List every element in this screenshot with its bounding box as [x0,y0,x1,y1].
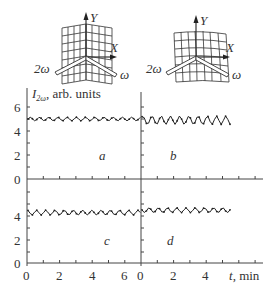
xtick-right-0: 0 [137,268,144,283]
diagram-left-y-label: Y [90,10,99,25]
grid-left-half [62,24,86,84]
diagram-right-y-label: Y [200,13,209,28]
ytick-bot-0: 0 [14,256,21,271]
xtick-2: 2 [56,268,63,283]
xtick-6: 6 [121,268,128,283]
diagram-left [55,12,117,84]
diagram-right [166,15,230,82]
series-line-c [28,210,140,215]
diagram-left-w-label: ω [120,67,129,82]
y-axis-title: I2ω, arb. units [31,86,101,103]
ytick-top-4: 4 [14,124,21,139]
panel-label-b: b [170,148,177,163]
xtick-right-4: 4 [202,268,209,283]
xtick-4: 4 [89,268,96,283]
diagram-right-x-label: X [225,40,235,55]
diagram-left-2w-label: 2ω [34,61,50,76]
ytick-bot-2: 2 [14,233,21,248]
ytick-top-6: 6 [14,100,21,115]
data-series [27,115,231,216]
xtick-right-2: 2 [170,268,177,283]
x-axis-title: t, min [229,268,260,283]
ytick-top-0: 0 [14,172,21,187]
diagram-right-w-label: ω [232,67,241,82]
figure: Y X 2ω ω Y X 2ω ω I2ω, arb. units [0,0,277,295]
xtick-0: 0 [23,268,30,283]
panel-label-c: c [104,233,110,248]
axes [27,88,263,266]
diagram-right-2w-label: 2ω [146,61,162,76]
ytick-bot-4: 4 [14,209,21,224]
grid-right-half [86,24,112,84]
panel-label-a: a [99,148,106,163]
diagram-left-x-label: X [109,40,119,55]
ytick-top-2: 2 [14,148,21,163]
panel-label-d: d [167,233,174,248]
